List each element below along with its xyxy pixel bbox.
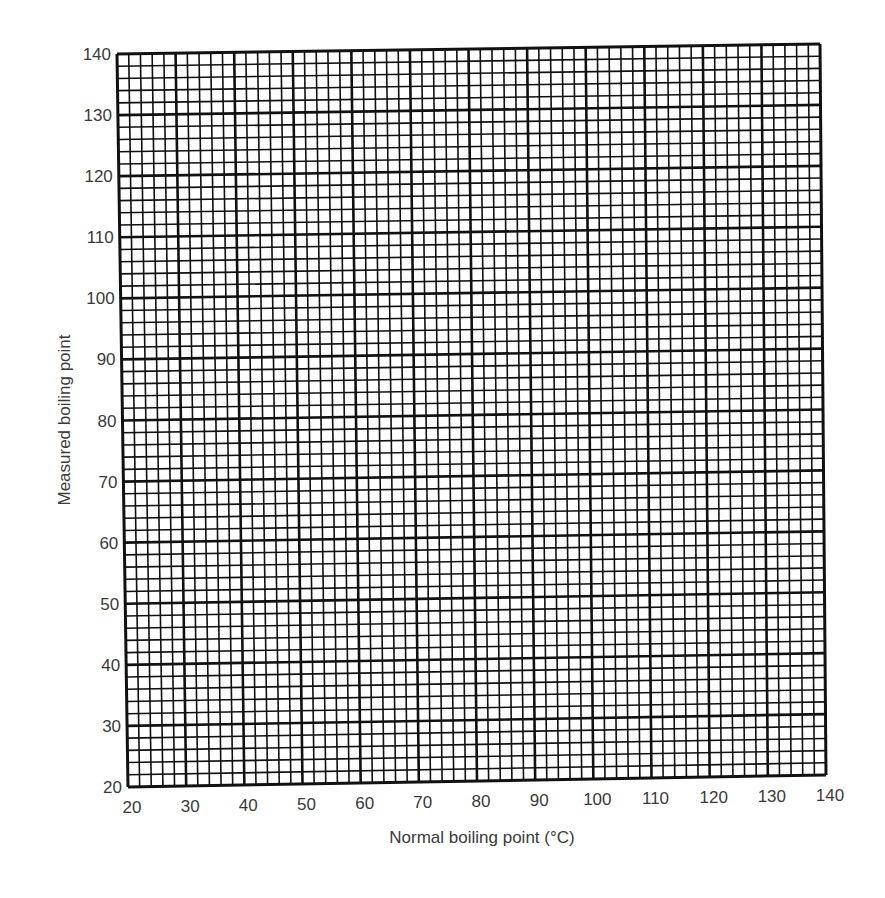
x-tick-label: 130 [758,787,786,806]
y-axis-ticks: 2030405060708090100110120130140 [83,45,122,797]
y-tick-label: 80 [98,412,117,431]
x-tick-label: 60 [355,794,374,813]
x-axis-ticks: 2030405060708090100110120130140 [123,786,845,817]
plot-grid [117,44,826,787]
x-tick-label: 30 [181,797,200,816]
x-tick-label: 70 [413,793,432,812]
y-tick-label: 110 [87,228,114,247]
x-tick-label: 110 [642,789,669,808]
x-tick-label: 140 [816,786,844,805]
y-tick-label: 50 [100,595,119,614]
x-tick-label: 120 [699,788,727,807]
y-tick-label: 40 [101,656,120,675]
x-tick-label: 100 [583,790,611,809]
x-tick-label: 20 [123,798,142,817]
y-tick-label: 100 [86,289,114,308]
y-axis-label: Measured boiling point [55,334,74,505]
x-tick-label: 50 [297,795,316,814]
y-tick-label: 90 [97,350,116,369]
graph-paper-chart: 2030405060708090100110120130140 20304050… [0,0,885,898]
x-tick-label: 90 [530,791,549,810]
y-tick-label: 120 [84,167,112,186]
y-tick-label: 20 [103,778,122,797]
y-tick-label: 60 [99,534,118,553]
y-tick-label: 30 [102,717,121,736]
x-axis-label: Normal boiling point (°C) [389,828,574,847]
y-tick-label: 70 [98,473,117,492]
x-tick-label: 80 [472,792,491,811]
y-tick-label: 130 [84,106,112,125]
y-tick-label: 140 [83,45,111,64]
x-tick-label: 40 [239,796,258,815]
